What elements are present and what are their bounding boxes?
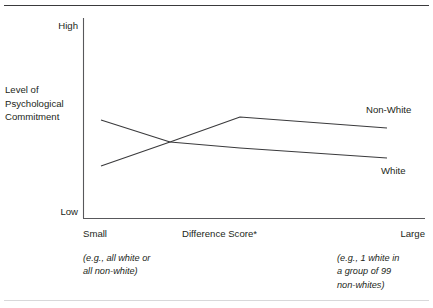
figure-bottom-rule bbox=[4, 300, 429, 301]
x-axis-note-right-line-2: a group of 99 bbox=[337, 265, 433, 278]
x-axis-tick-large: Large bbox=[330, 228, 425, 240]
y-axis-tick-low: Low bbox=[8, 206, 78, 218]
figure-container: High Low Level of Psychological Commitme… bbox=[0, 0, 433, 308]
x-axis-note-right: (e.g., 1 white in a group of 99 non-whit… bbox=[337, 252, 433, 292]
y-axis-tick-high: High bbox=[8, 20, 78, 32]
series-label-non-white: Non-White bbox=[366, 104, 411, 115]
x-axis-note-left: (e.g., all white or all non-white) bbox=[83, 252, 213, 279]
y-axis-title: Level of Psychological Commitment bbox=[5, 83, 81, 124]
y-axis-title-line-1: Level of bbox=[5, 83, 81, 97]
series-line-non-white bbox=[101, 117, 387, 166]
series-line-white bbox=[101, 120, 387, 158]
y-axis-title-line-3: Commitment bbox=[5, 110, 81, 124]
x-axis-tick-small: Small bbox=[83, 228, 107, 240]
x-axis-note-right-line-3: non-whites) bbox=[337, 279, 433, 292]
series-label-white: White bbox=[381, 165, 406, 176]
x-axis-title: Difference Score* bbox=[182, 228, 257, 240]
x-axis-note-right-line-1: (e.g., 1 white in bbox=[337, 252, 433, 265]
x-axis-note-left-line-2: all non-white) bbox=[83, 265, 213, 278]
x-axis-note-left-line-1: (e.g., all white or bbox=[83, 252, 213, 265]
y-axis-title-line-2: Psychological bbox=[5, 97, 81, 111]
